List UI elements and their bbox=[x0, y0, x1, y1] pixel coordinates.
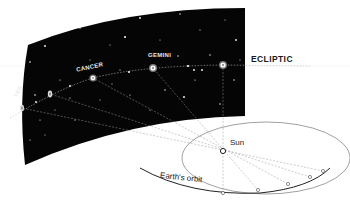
sun-icon bbox=[220, 148, 225, 153]
label-gemini: GEMINI bbox=[148, 52, 171, 58]
label-ecliptic: ECLIPTIC bbox=[251, 54, 293, 64]
night-sky-panel bbox=[22, 8, 245, 165]
earth-orbit-ellipse bbox=[182, 122, 350, 194]
label-sun: Sun bbox=[230, 138, 244, 147]
ecliptic-diagram: CANCER GEMINI LEO ECLIPTIC Sun Earth's o… bbox=[0, 0, 350, 202]
